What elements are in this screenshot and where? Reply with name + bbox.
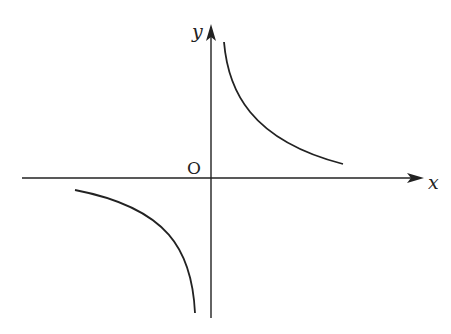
curve-lower-left-branch <box>75 190 195 313</box>
curve-upper-right-branch <box>224 42 343 164</box>
y-axis-label: y <box>192 20 203 42</box>
hyperbola-graph <box>0 0 451 334</box>
x-axis-label: x <box>428 171 439 193</box>
origin-label: O <box>187 158 201 178</box>
